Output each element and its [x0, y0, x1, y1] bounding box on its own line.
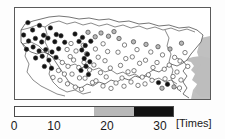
station-marker — [137, 61, 141, 65]
station-marker — [65, 47, 69, 51]
station-marker — [177, 86, 181, 90]
station-marker — [122, 84, 126, 88]
colorbar-segment-3 — [134, 107, 174, 116]
station-marker — [65, 82, 69, 86]
station-marker — [44, 47, 48, 51]
station-marker — [37, 49, 41, 53]
station-marker — [62, 72, 66, 76]
station-marker — [71, 58, 75, 62]
station-marker — [179, 41, 183, 45]
station-marker — [86, 30, 90, 34]
station-marker — [109, 86, 113, 90]
station-marker — [59, 34, 63, 38]
station-marker — [98, 70, 102, 74]
station-marker — [101, 42, 105, 46]
station-marker — [51, 75, 55, 79]
colorbar-tick-2: 20 — [94, 118, 120, 134]
station-marker — [140, 75, 144, 79]
station-marker — [63, 40, 67, 44]
station-marker — [84, 64, 88, 68]
station-marker — [126, 70, 130, 74]
station-marker — [37, 23, 41, 27]
station-marker — [87, 68, 91, 72]
station-marker — [130, 55, 134, 59]
station-marker — [132, 69, 136, 73]
station-marker — [179, 78, 183, 82]
station-marker — [30, 28, 34, 32]
station-marker — [163, 77, 167, 81]
station-marker — [50, 50, 54, 54]
station-marker — [77, 76, 81, 80]
station-marker — [183, 50, 187, 54]
station-marker — [167, 63, 171, 67]
station-marker — [56, 47, 60, 51]
station-marker — [31, 45, 35, 49]
station-marker — [69, 41, 73, 45]
station-marker — [24, 47, 28, 51]
station-marker — [83, 43, 87, 47]
station-marker — [106, 34, 110, 38]
station-marker — [82, 56, 86, 60]
station-marker — [151, 65, 155, 69]
station-marker — [83, 76, 87, 80]
station-marker — [79, 87, 83, 91]
station-marker — [77, 39, 81, 43]
colorbar-tick-3: 30 — [147, 118, 173, 134]
station-marker — [47, 58, 51, 62]
station-marker — [93, 47, 97, 51]
colorbar-segment-2 — [94, 107, 134, 116]
station-marker — [117, 36, 121, 40]
station-marker — [54, 32, 58, 36]
station-marker — [53, 40, 57, 44]
station-marker — [156, 45, 160, 49]
station-marker — [74, 49, 78, 53]
station-marker — [116, 50, 120, 54]
station-marker — [131, 40, 135, 44]
colorbar-tick-0: 0 — [1, 118, 27, 134]
colorbar-segment-0 — [15, 107, 55, 116]
station-marker — [70, 72, 74, 76]
colorbar-segment-1 — [55, 107, 95, 116]
station-marker — [105, 49, 109, 53]
station-marker — [93, 35, 97, 39]
station-marker — [58, 78, 62, 82]
station-marker — [118, 63, 122, 67]
station-marker — [73, 32, 77, 36]
station-marker — [56, 68, 60, 72]
map-panel — [14, 7, 211, 100]
station-marker — [114, 81, 118, 85]
station-marker — [112, 29, 116, 33]
station-marker — [40, 54, 44, 58]
station-marker — [92, 63, 96, 67]
station-marker — [146, 73, 150, 77]
station-marker — [175, 70, 179, 74]
station-marker — [66, 64, 70, 68]
station-marker — [41, 33, 45, 37]
station-marker — [46, 36, 50, 40]
station-marker — [143, 58, 147, 62]
station-marker — [150, 78, 154, 82]
station-marker — [73, 85, 77, 89]
station-marker — [103, 59, 107, 63]
station-marker — [168, 47, 172, 51]
station-marker — [172, 85, 176, 89]
station-marker — [162, 67, 166, 71]
station-marker — [186, 64, 190, 68]
figure-root: 0 10 20 30 [Times] — [0, 0, 225, 139]
station-marker — [129, 80, 133, 84]
station-marker — [86, 72, 90, 76]
station-marker — [155, 60, 159, 64]
colorbar — [14, 106, 174, 117]
station-marker — [136, 83, 140, 87]
station-marker — [80, 48, 84, 52]
station-marker — [156, 80, 160, 84]
station-marker — [96, 55, 100, 59]
station-marker — [171, 74, 175, 78]
station-marker — [160, 86, 164, 90]
station-marker — [160, 53, 164, 57]
station-marker — [122, 43, 126, 47]
station-marker — [108, 66, 112, 70]
station-marker — [49, 66, 53, 70]
station-marker — [79, 68, 83, 72]
station-marker — [26, 20, 30, 24]
